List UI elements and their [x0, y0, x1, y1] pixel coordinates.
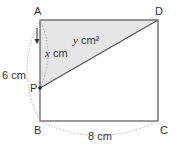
- point-p-dot: [38, 86, 42, 90]
- label-area: y cm²: [72, 34, 100, 46]
- label-ap-length: x cm: [44, 47, 68, 59]
- label-ab-length: 6 cm: [2, 69, 26, 81]
- geometry-diagram: A D B C P 6 cm 8 cm x cm y cm²: [0, 0, 184, 153]
- label-p: P: [30, 82, 37, 94]
- label-bc-length: 8 cm: [88, 130, 112, 142]
- label-a: A: [34, 5, 42, 17]
- dimension-arc-ab: [27, 20, 40, 121]
- label-b: B: [34, 124, 41, 136]
- label-d: D: [155, 5, 163, 17]
- arrow-down-icon: [35, 39, 40, 44]
- label-c: C: [160, 124, 168, 136]
